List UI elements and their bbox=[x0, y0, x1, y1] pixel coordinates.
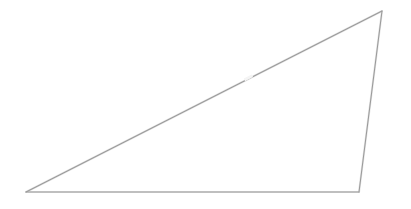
triangle-figure bbox=[0, 0, 411, 209]
drawing-canvas bbox=[0, 0, 411, 209]
canvas-background bbox=[0, 0, 411, 209]
